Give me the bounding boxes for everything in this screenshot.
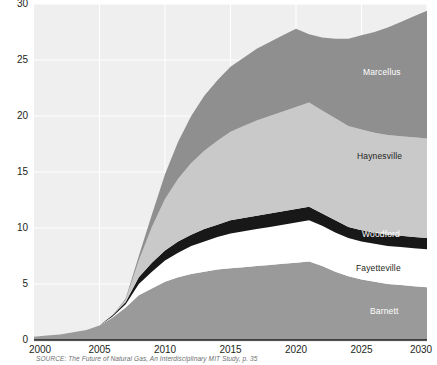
x-tick-label: 2020 <box>276 345 316 355</box>
series-label-haynesville: Haynesville <box>357 152 402 161</box>
y-tick-label: 10 <box>0 223 28 233</box>
x-tick-label: 2030 <box>401 345 437 355</box>
y-tick-label: 15 <box>0 167 28 177</box>
y-tick-label: 30 <box>0 0 28 9</box>
y-tick-label: 25 <box>0 55 28 65</box>
x-tick-label: 2005 <box>80 345 120 355</box>
x-tick-label: 2010 <box>145 345 185 355</box>
x-tick-label: 2015 <box>211 345 251 355</box>
x-tick-label: 2000 <box>20 345 60 355</box>
stacked-area-svg <box>34 4 427 342</box>
y-tick-label: 5 <box>0 279 28 289</box>
series-label-fayetteville: Fayetteville <box>356 264 401 273</box>
x-tick-label: 2025 <box>342 345 382 355</box>
source-note: SOURCE: The Future of Natural Gas, An In… <box>36 355 257 362</box>
plot-area <box>34 4 427 342</box>
y-tick-label: 0 <box>0 335 28 345</box>
y-tick-label: 20 <box>0 111 28 121</box>
series-label-marcellus: Marcellus <box>363 68 401 77</box>
series-label-barnett: Barnett <box>370 307 398 316</box>
series-label-woodford: Woodford <box>362 230 400 239</box>
